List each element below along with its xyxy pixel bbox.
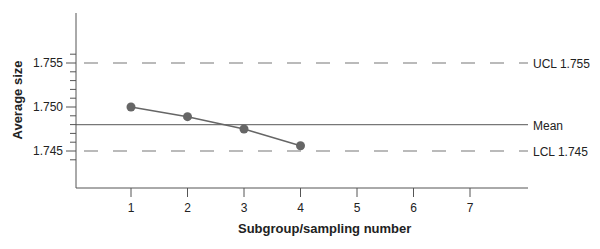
data-point (240, 125, 249, 134)
y-tick-label: 1.745 (33, 144, 63, 158)
series-line (131, 107, 301, 146)
mean-label: Mean (533, 119, 563, 133)
x-tick-label: 7 (467, 201, 474, 215)
x-tick-label: 1 (128, 201, 135, 215)
lcl-label: LCL 1.745 (533, 145, 588, 159)
reference-lines: UCL 1.755MeanLCL 1.745 (76, 57, 590, 159)
ucl-label: UCL 1.755 (533, 57, 590, 71)
x-axis-label: Subgroup/sampling number (238, 221, 411, 236)
y-tick-label: 1.755 (33, 56, 63, 70)
y-tick-label: 1.750 (33, 100, 63, 114)
data-point (296, 141, 305, 150)
data-point (127, 103, 136, 112)
x-ticks: 1234567 (128, 188, 474, 215)
x-tick-label: 2 (184, 201, 191, 215)
x-tick-label: 5 (354, 201, 361, 215)
axes (76, 13, 528, 188)
x-tick-label: 3 (241, 201, 248, 215)
y-axis-label: Average size (10, 60, 25, 139)
y-ticks: 1.7451.7501.755 (33, 54, 76, 160)
control-chart: UCL 1.755MeanLCL 1.745 1.7451.7501.755 1… (0, 0, 600, 249)
data-series (127, 103, 306, 151)
data-point (183, 112, 192, 121)
x-tick-label: 6 (410, 201, 417, 215)
x-tick-label: 4 (297, 201, 304, 215)
